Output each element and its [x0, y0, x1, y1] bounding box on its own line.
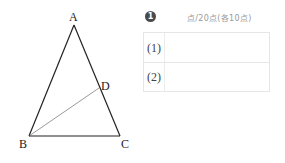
- question-number-badge: 1: [145, 11, 156, 22]
- segment-bd: [29, 88, 99, 136]
- answer-row: (1): [144, 33, 269, 63]
- answer-field-1[interactable]: [164, 33, 269, 63]
- answer-row-label: (1): [144, 33, 164, 63]
- answer-row: (2): [144, 62, 269, 92]
- point-label-b: B: [19, 138, 27, 150]
- answer-table: (1) (2): [143, 32, 270, 92]
- answer-field-2[interactable]: [164, 63, 269, 92]
- answer-row-label: (2): [144, 63, 164, 92]
- side-ab: [29, 25, 74, 136]
- triangle-figure: A B C D: [0, 0, 140, 163]
- score-label: 点/20点(各10点): [187, 12, 252, 23]
- point-label-c: C: [121, 138, 129, 150]
- point-label-a: A: [69, 11, 78, 23]
- side-ac: [74, 25, 120, 136]
- point-label-d: D: [101, 80, 110, 92]
